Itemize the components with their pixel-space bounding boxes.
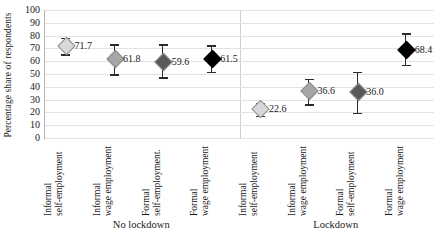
y-axis-tick-label: 60 [30, 56, 40, 66]
y-axis-tick-label: 90 [30, 18, 40, 28]
data-value-label: 68.4 [415, 45, 433, 55]
gridline [45, 100, 434, 101]
category-label-line1: Informal [287, 146, 298, 216]
diamond-marker-icon [398, 41, 416, 59]
data-value-label: 36.6 [318, 86, 336, 96]
category-label-line2: self-employment [248, 152, 259, 216]
error-bar-cap-upper [305, 79, 314, 81]
error-bar-cap-lower [305, 104, 314, 106]
y-axis-title: Percentage share of respondents [0, 0, 16, 150]
diamond-marker-icon [154, 53, 172, 71]
data-value-label: 22.6 [269, 104, 287, 114]
error-bar-cap-lower [159, 77, 168, 79]
data-value-label: 36.0 [366, 87, 384, 97]
category-label-line2: self-employment [54, 152, 65, 216]
y-axis-tick-label: 10 [30, 120, 40, 130]
gridline [45, 74, 434, 75]
gridline [45, 61, 434, 62]
error-bar-cap-upper [402, 33, 411, 35]
category-label-line1: Informal [43, 152, 54, 216]
gridline [45, 48, 434, 49]
gridline [45, 125, 434, 126]
y-axis-tick-label: 20 [30, 107, 40, 117]
error-bar-cap-lower [402, 65, 411, 67]
diamond-marker-icon [300, 82, 318, 100]
error-bar-cap-upper [207, 45, 216, 47]
y-axis-tick-label: 80 [30, 31, 40, 41]
y-axis-tick-label: 70 [30, 43, 40, 53]
x-axis-group-labels: No lockdownLockdown [44, 219, 433, 237]
category-label-line1: Formal [335, 152, 346, 216]
diamond-marker-icon [349, 83, 367, 101]
y-axis-tick-label: 50 [30, 69, 40, 79]
error-bar-cap-lower [207, 72, 216, 74]
category-label-line2: wage employment [200, 146, 211, 216]
error-bar-cap-upper [159, 44, 168, 46]
category-label-line1: Formal [141, 149, 152, 216]
y-axis-tick-label: 40 [30, 82, 40, 92]
x-axis-category-labels: Informalself-employmentInformalwage empl… [44, 140, 433, 218]
group-label: No lockdown [113, 219, 170, 230]
category-label-line1: Formal [384, 146, 395, 216]
gridline [45, 138, 434, 139]
group-label: Lockdown [313, 219, 358, 230]
data-value-label: 61.5 [220, 54, 238, 64]
gridline [45, 36, 434, 37]
y-axis-tick-label: 30 [30, 95, 40, 105]
y-axis-tick-label: 0 [35, 133, 40, 143]
diamond-marker-icon [106, 50, 124, 68]
error-bar-cap-upper [353, 72, 362, 74]
plot-area: 71.761.859.661.522.636.636.068.4 [44, 10, 434, 139]
diamond-marker-icon [57, 37, 75, 55]
category-label-line2: wage employment [297, 146, 308, 216]
gridline [45, 10, 434, 11]
y-axis-tick-labels: 1009080706050403020100 [16, 10, 42, 138]
category-label-line2: self-employment [346, 152, 357, 216]
category-label-line1: Informal [238, 152, 249, 216]
data-value-label: 71.7 [74, 41, 92, 51]
gridline [45, 112, 434, 113]
category-label-line2: wage employment [103, 146, 114, 216]
data-value-label: 61.8 [123, 54, 141, 64]
error-bar-cap-upper [110, 44, 119, 46]
gridline [45, 23, 434, 24]
y-axis-title-text: Percentage share of respondents [3, 12, 13, 137]
diamond-marker-icon [252, 100, 270, 118]
error-bar-cap-lower [353, 113, 362, 115]
error-bar-chart: Percentage share of respondents 10090807… [0, 0, 441, 241]
diamond-marker-icon [203, 50, 221, 68]
category-label-line1: Informal [92, 146, 103, 216]
category-label-line2: self-employment. [151, 149, 162, 216]
data-value-label: 59.6 [172, 57, 190, 67]
y-axis-tick-label: 100 [25, 5, 40, 15]
error-bar-cap-lower [110, 74, 119, 76]
category-label-line2: wage employment [394, 146, 405, 216]
category-label-line1: Formal [189, 146, 200, 216]
